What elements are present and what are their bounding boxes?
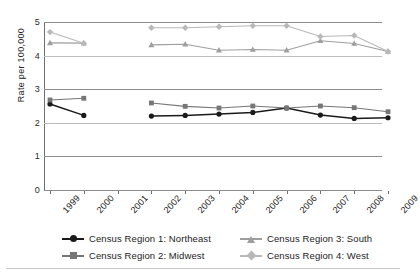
legend-item-northeast[interactable]: Census Region 1: Northeast bbox=[62, 233, 240, 244]
data-point-census-region-4-west-2003 bbox=[182, 25, 188, 31]
data-point-census-region-2-midwest-2000 bbox=[81, 96, 86, 101]
data-point-census-region-4-west-2008 bbox=[351, 32, 357, 38]
data-point-census-region-2-midwest-1999 bbox=[48, 98, 53, 103]
legend-label: Census Region 4: West bbox=[267, 250, 369, 261]
x-tick-mark-2007 bbox=[320, 191, 321, 194]
legend-marker-diamond-icon bbox=[240, 251, 262, 261]
x-tick-mark-2001 bbox=[118, 191, 119, 194]
series-line-census-region-4-west bbox=[50, 32, 84, 43]
x-tick-mark-1999 bbox=[50, 191, 51, 194]
legend-marker-circle-icon bbox=[62, 234, 84, 244]
data-point-census-region-1-northeast-2007 bbox=[318, 112, 323, 117]
series-line-census-region-4-west bbox=[151, 26, 388, 52]
data-point-census-region-4-west-2007 bbox=[317, 33, 323, 39]
legend-label: Census Region 1: Northeast bbox=[89, 233, 211, 244]
legend-marker-triangle-icon bbox=[240, 234, 262, 244]
legend-item-midwest[interactable]: Census Region 2: Midwest bbox=[62, 250, 240, 261]
legend-label: Census Region 2: Midwest bbox=[89, 250, 204, 261]
legend-marker-square-icon bbox=[62, 251, 84, 261]
data-point-census-region-2-midwest-2009 bbox=[386, 109, 391, 114]
x-tick-mark-2005 bbox=[253, 191, 254, 194]
data-point-census-region-1-northeast-2003 bbox=[183, 113, 188, 118]
data-point-census-region-2-midwest-2008 bbox=[352, 105, 357, 110]
data-point-census-region-4-west-2002 bbox=[148, 25, 154, 31]
data-point-census-region-1-northeast-2000 bbox=[81, 113, 86, 118]
data-point-census-region-4-west-2005 bbox=[250, 22, 256, 28]
data-point-census-region-2-midwest-2007 bbox=[318, 104, 323, 109]
data-point-census-region-1-northeast-2009 bbox=[385, 115, 390, 120]
data-point-census-region-2-midwest-2004 bbox=[217, 106, 222, 111]
data-point-census-region-2-midwest-2003 bbox=[183, 104, 188, 109]
data-point-census-region-1-northeast-2005 bbox=[250, 110, 255, 115]
x-tick-mark-2000 bbox=[84, 191, 85, 194]
x-tick-mark-2004 bbox=[219, 191, 220, 194]
x-tick-mark-2003 bbox=[185, 191, 186, 194]
data-point-census-region-2-midwest-2005 bbox=[250, 104, 255, 109]
data-point-census-region-1-northeast-2002 bbox=[149, 113, 154, 118]
legend-item-south[interactable]: Census Region 3: South bbox=[240, 233, 400, 244]
footer-divider bbox=[6, 268, 400, 269]
x-tick-mark-2009 bbox=[388, 191, 389, 194]
data-point-census-region-4-west-1999 bbox=[47, 29, 53, 35]
x-tick-mark-2008 bbox=[354, 191, 355, 194]
series-line-census-region-2-midwest bbox=[50, 98, 84, 100]
x-tick-mark-2002 bbox=[151, 191, 152, 194]
series-line-census-region-1-northeast bbox=[50, 104, 84, 115]
data-point-census-region-1-northeast-2008 bbox=[352, 116, 357, 121]
data-point-census-region-2-midwest-2006 bbox=[284, 106, 289, 111]
data-point-census-region-4-west-2004 bbox=[216, 24, 222, 30]
data-point-census-region-1-northeast-2004 bbox=[216, 111, 221, 116]
data-point-census-region-2-midwest-2002 bbox=[149, 101, 154, 106]
chart-legend: Census Region 1: Northeast Census Region… bbox=[62, 230, 392, 264]
legend-item-west[interactable]: Census Region 4: West bbox=[240, 250, 400, 261]
x-tick-mark-2006 bbox=[287, 191, 288, 194]
data-point-census-region-4-west-2006 bbox=[283, 22, 289, 28]
legend-label: Census Region 3: South bbox=[267, 233, 372, 244]
